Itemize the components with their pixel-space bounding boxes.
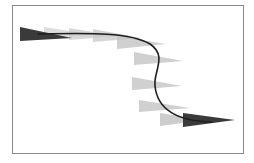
motion-path-diagram — [0, 0, 254, 163]
wedge-group — [20, 27, 235, 127]
ghost-wedge-icon — [132, 77, 182, 90]
ghost-wedge-icon — [117, 36, 166, 49]
